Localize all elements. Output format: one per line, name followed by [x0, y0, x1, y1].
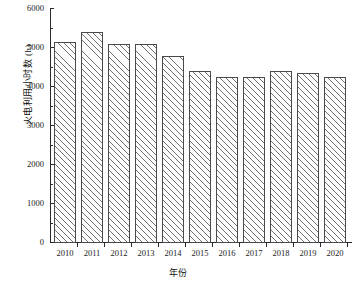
bar-2014[interactable]: [162, 56, 184, 243]
y-tick-label-1000: 1000: [0, 199, 44, 208]
y-axis-title: 火电利用小时数 (h): [21, 10, 34, 160]
x-tick-mark-2019: [320, 243, 321, 247]
x-axis-title: 年份: [0, 266, 356, 279]
x-tick-label-2020: 2020: [318, 249, 352, 258]
bar-2016[interactable]: [216, 77, 238, 244]
bar-2015[interactable]: [189, 71, 211, 243]
bar-2010[interactable]: [54, 42, 76, 243]
x-tick-mark-2012: [131, 243, 132, 247]
bars-layer: [50, 8, 352, 243]
bar-2012[interactable]: [108, 44, 130, 243]
x-tick-mark-2011: [104, 243, 105, 247]
bar-2020[interactable]: [324, 77, 346, 244]
x-tick-mark-2017: [266, 243, 267, 247]
bar-2011[interactable]: [81, 32, 103, 243]
x-tick-mark-2015: [212, 243, 213, 247]
y-tick-label-0: 0: [0, 238, 44, 247]
x-tick-mark-2020: [347, 243, 348, 247]
x-tick-mark-2013: [158, 243, 159, 247]
x-tick-mark-2014: [185, 243, 186, 247]
x-tick-mark-2018: [293, 243, 294, 247]
bar-2018[interactable]: [270, 71, 292, 243]
bar-2019[interactable]: [297, 73, 319, 243]
x-tick-mark-2010: [77, 243, 78, 247]
bar-2017[interactable]: [243, 77, 265, 244]
x-tick-mark-2016: [239, 243, 240, 247]
y-tick-label-2000: 2000: [0, 160, 44, 169]
bar-2013[interactable]: [135, 44, 157, 243]
thermal-power-utilization-hours-bar-chart: 6000 5000 4000 3000 2000 1000 0: [0, 0, 356, 291]
